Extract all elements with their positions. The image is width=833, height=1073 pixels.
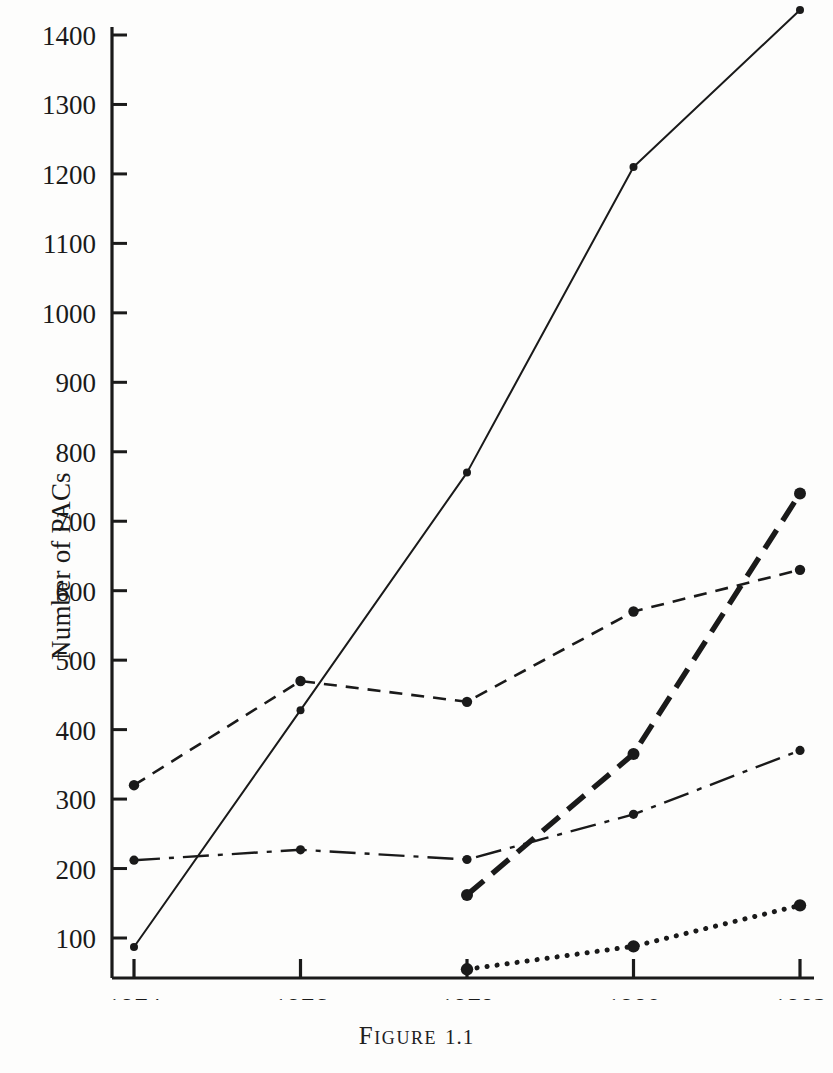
figure-caption-word: Figure	[359, 1022, 438, 1049]
series-line	[134, 570, 800, 785]
data-point	[461, 963, 473, 975]
y-tick-label: 600	[56, 577, 97, 607]
figure-caption-number: 1.1	[445, 1025, 474, 1049]
y-tick-label: 900	[56, 368, 97, 398]
y-tick-label: 1200	[42, 160, 96, 190]
series-dash-dot-line	[129, 746, 804, 865]
chart-plot-area: 1002003004005006007008009001000110012001…	[0, 0, 833, 1000]
y-tick-label: 1100	[43, 229, 96, 259]
series-heavy-dashed-line	[461, 487, 806, 900]
x-tick-label: 1978	[440, 993, 494, 1000]
y-tick-label: 700	[56, 507, 97, 537]
data-point	[462, 855, 471, 864]
y-tick-label: 1300	[42, 90, 96, 120]
figure-container: Number of PACs 1002003004005006007008009…	[0, 0, 833, 1073]
series-solid-line	[130, 6, 804, 951]
data-point	[627, 940, 639, 952]
y-tick-label: 1400	[42, 21, 96, 51]
figure-caption: Figure 1.1	[0, 1022, 833, 1050]
data-point	[794, 487, 806, 499]
data-point	[463, 469, 471, 477]
series-line	[134, 10, 800, 947]
line-chart: 1002003004005006007008009001000110012001…	[0, 0, 833, 1000]
y-tick-label: 1000	[42, 299, 96, 329]
data-point	[630, 163, 638, 171]
y-tick-label: 200	[56, 855, 97, 885]
data-point	[461, 889, 473, 901]
y-tick-label: 800	[56, 438, 97, 468]
series-line	[467, 493, 800, 894]
data-point	[129, 780, 139, 790]
data-point	[629, 810, 638, 819]
y-axis-ticks: 1002003004005006007008009001000110012001…	[42, 21, 127, 954]
x-tick-label: 1974	[107, 993, 162, 1000]
series-short-dashed-line	[129, 565, 805, 791]
x-tick-label: 1980	[607, 993, 661, 1000]
data-point	[130, 943, 138, 951]
y-tick-label: 100	[56, 924, 97, 954]
data-point	[795, 746, 804, 755]
data-point	[795, 565, 805, 575]
data-point	[796, 6, 804, 14]
data-point	[462, 697, 472, 707]
data-point	[295, 676, 305, 686]
y-tick-label: 400	[56, 716, 97, 746]
y-tick-label: 500	[56, 646, 97, 676]
data-point	[129, 856, 138, 865]
axes	[112, 27, 814, 978]
data-point	[628, 748, 640, 760]
data-point	[794, 899, 806, 911]
y-tick-label: 300	[56, 785, 97, 815]
data-point	[297, 706, 305, 714]
data-point	[628, 606, 638, 616]
x-tick-label: 1976	[274, 993, 328, 1000]
data-point	[296, 845, 305, 854]
x-tick-label: 1982	[773, 993, 827, 1000]
